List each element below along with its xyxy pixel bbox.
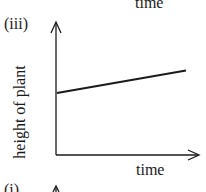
next-panel-axis-stub — [53, 186, 59, 192]
y-axis — [51, 22, 61, 155]
x-axis — [56, 150, 199, 160]
series-line-height-of-plant — [57, 71, 186, 93]
chart-plot-area — [0, 0, 206, 192]
